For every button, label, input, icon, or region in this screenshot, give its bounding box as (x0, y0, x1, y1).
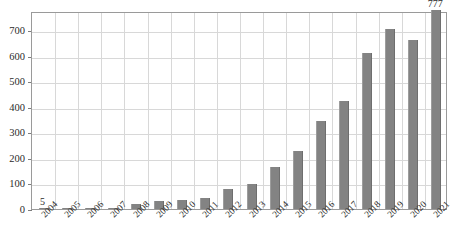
y-tick-label-0: 0 (20, 205, 25, 216)
bars-layer (32, 13, 446, 209)
y-tick-label-200: 200 (9, 154, 25, 165)
bar-chart: 0100200300400500600700 20042005200620072… (0, 0, 456, 243)
value-label-2004: 5 (40, 197, 45, 207)
value-label-2021: 777 (428, 0, 443, 9)
bar-2019 (385, 29, 395, 209)
y-tick-label-100: 100 (9, 179, 25, 190)
plot-area (31, 12, 447, 210)
bar-2015 (293, 151, 303, 209)
bar-2020 (408, 40, 418, 209)
y-tick-label-400: 400 (9, 102, 25, 113)
x-axis: 2004200520062007200820092010201120122013… (31, 210, 447, 243)
bar-2021 (431, 10, 441, 209)
y-tick-label-700: 700 (9, 26, 25, 37)
y-tick-label-300: 300 (9, 128, 25, 139)
bar-2016 (316, 121, 326, 209)
y-tick-label-500: 500 (9, 77, 25, 88)
bar-2018 (362, 53, 372, 209)
bar-2017 (339, 101, 349, 209)
y-tick-label-600: 600 (9, 51, 25, 62)
y-axis: 0100200300400500600700 (0, 12, 31, 210)
